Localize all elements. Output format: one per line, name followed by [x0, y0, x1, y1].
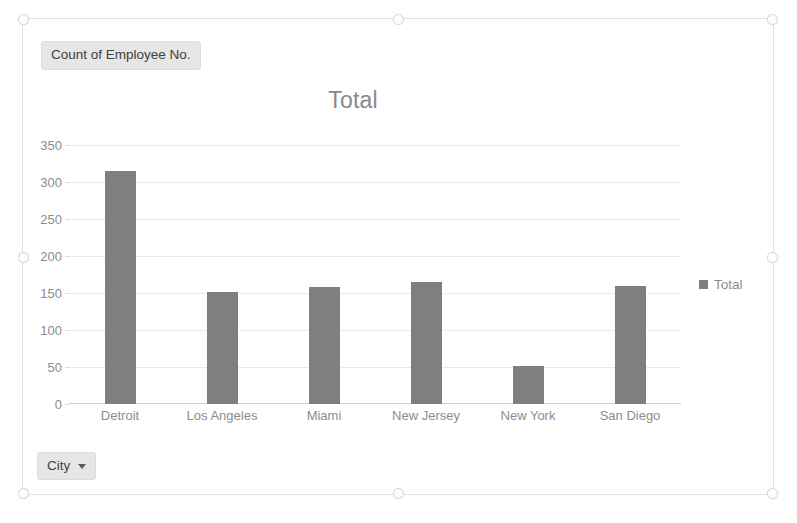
y-tick-label: 150	[40, 286, 62, 301]
bar-san-diego[interactable]	[615, 286, 646, 404]
bar-los-angeles[interactable]	[207, 292, 238, 404]
x-tick-label: Los Angeles	[171, 408, 273, 423]
resize-handle-top-right[interactable]	[767, 14, 778, 25]
y-tick-label: 200	[40, 249, 62, 264]
bar-new-york[interactable]	[513, 366, 544, 404]
pivot-field-button-city[interactable]: City	[37, 452, 96, 481]
bar-slot	[171, 145, 273, 404]
bar-slot	[69, 145, 171, 404]
resize-handle-bottom-center[interactable]	[393, 488, 404, 499]
y-tick-label: 250	[40, 212, 62, 227]
bar-slot	[477, 145, 579, 404]
resize-handle-top-center[interactable]	[393, 14, 404, 25]
x-tick-label: New Jersey	[375, 408, 477, 423]
bar-series-total	[69, 145, 681, 404]
chart-title: Total	[23, 87, 773, 114]
pivot-field-button-values-label: Count of Employee No.	[51, 48, 191, 62]
resize-handle-bottom-left[interactable]	[18, 488, 29, 499]
y-tick-label: 50	[48, 360, 62, 375]
bar-slot	[375, 145, 477, 404]
x-tick-label: Miami	[273, 408, 375, 423]
x-axis-labels: DetroitLos AngelesMiamiNew JerseyNew Yor…	[69, 408, 681, 423]
bar-slot	[579, 145, 681, 404]
y-tick-label: 350	[40, 138, 62, 153]
chart-legend: Total	[699, 277, 743, 292]
resize-handle-bottom-right[interactable]	[767, 488, 778, 499]
legend-swatch	[699, 280, 708, 289]
legend-label: Total	[714, 277, 743, 292]
x-tick-label: San Diego	[579, 408, 681, 423]
y-tick-mark	[65, 404, 69, 405]
y-tick-label: 0	[55, 397, 62, 412]
resize-handle-middle-right[interactable]	[767, 252, 778, 263]
pivot-field-button-values[interactable]: Count of Employee No.	[41, 41, 201, 70]
x-tick-label: Detroit	[69, 408, 171, 423]
bar-slot	[273, 145, 375, 404]
plot-area: 350300250200150100500	[69, 145, 681, 404]
chevron-down-icon[interactable]	[78, 464, 86, 469]
pivot-field-button-city-label: City	[47, 459, 70, 473]
resize-handle-middle-left[interactable]	[18, 252, 29, 263]
resize-handle-top-left[interactable]	[18, 14, 29, 25]
x-tick-label: New York	[477, 408, 579, 423]
y-tick-label: 300	[40, 175, 62, 190]
y-tick-label: 100	[40, 323, 62, 338]
bar-detroit[interactable]	[105, 171, 136, 404]
pivot-chart-object[interactable]: Count of Employee No. Total 350300250200…	[22, 18, 774, 495]
bar-new-jersey[interactable]	[411, 282, 442, 404]
bar-miami[interactable]	[309, 287, 340, 404]
